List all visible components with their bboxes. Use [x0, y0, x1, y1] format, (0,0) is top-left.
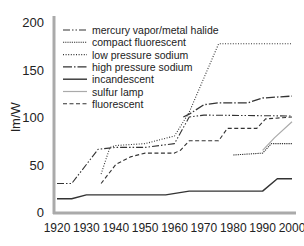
series-sulfur-lamp: [263, 122, 292, 151]
x-tick-label: 1980: [220, 221, 247, 235]
y-axis-label: lm/W: [8, 101, 23, 131]
legend-item-mercury-vapor-metal-halide: mercury vapor/metal halide: [63, 24, 219, 36]
series-compact-fluorescent: [233, 144, 292, 155]
legend-label: high pressure sodium: [92, 61, 193, 73]
legend-item-incandescent: incandescent: [63, 73, 154, 85]
legend-item-compact-fluorescent: compact fluorescent: [63, 36, 186, 48]
series-high-pressure-sodium: [183, 96, 292, 117]
x-tick-label: 1960: [161, 221, 188, 235]
efficacy-line-chart: 050100150200 lm/W 1920193019401950196019…: [0, 0, 304, 246]
series-mercury-vapor-metal-halide: [57, 115, 292, 183]
x-tick-label: 1930: [73, 221, 100, 235]
series-incandescent: [57, 179, 292, 199]
x-tick-label: 1940: [102, 221, 129, 235]
legend-label: compact fluorescent: [92, 36, 186, 48]
legend-label: incandescent: [92, 73, 154, 85]
legend-label: sulfur lamp: [92, 86, 144, 98]
y-axis: 050100150200 lm/W: [8, 15, 54, 220]
x-tick-label: 2000: [279, 221, 304, 235]
y-tick-label: 150: [22, 63, 44, 78]
legend-item-fluorescent: fluorescent: [63, 98, 143, 110]
x-tick-label: 1950: [132, 221, 159, 235]
legend-item-high-pressure-sodium: high pressure sodium: [63, 61, 193, 73]
y-tick-label: 200: [22, 15, 44, 30]
x-tick-label: 1990: [249, 221, 276, 235]
x-tick-label: 1970: [191, 221, 218, 235]
legend-label: low pressure sodium: [92, 49, 189, 61]
legend-label: fluorescent: [92, 98, 143, 110]
y-tick-label: 50: [30, 158, 44, 173]
x-axis: 192019301940195019601970198019902000: [44, 213, 304, 235]
legend-item-low-pressure-sodium: low pressure sodium: [63, 49, 189, 61]
y-tick-label: 0: [37, 205, 44, 220]
y-tick-label: 100: [22, 110, 44, 125]
legend-item-sulfur-lamp: sulfur lamp: [63, 86, 144, 98]
x-tick-label: 1920: [44, 221, 71, 235]
legend-label: mercury vapor/metal halide: [92, 24, 219, 36]
